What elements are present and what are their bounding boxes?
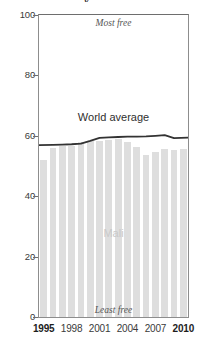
y-tick-label-80: 80 bbox=[7, 70, 35, 79]
x-tick-label-2010: 2010 bbox=[168, 323, 197, 334]
x-tick-label-2007: 2007 bbox=[140, 323, 170, 334]
economic-freedom-chart: y 020406080100 Most free World average M… bbox=[0, 0, 197, 348]
y-tick-label-100: 100 bbox=[7, 10, 35, 19]
x-tick-label-1998: 1998 bbox=[57, 323, 87, 334]
line-series-world-average bbox=[39, 15, 188, 317]
x-tick-label-2001: 2001 bbox=[85, 323, 115, 334]
annotation-least-free: Least free bbox=[39, 305, 188, 315]
y-tick-label-20: 20 bbox=[7, 252, 35, 261]
cropped-title-descender: y bbox=[83, 0, 95, 2]
y-tick-label-60: 60 bbox=[7, 131, 35, 140]
x-tick-label-1995: 1995 bbox=[29, 323, 59, 334]
x-tick-label-2004: 2004 bbox=[112, 323, 142, 334]
annotation-world-average-label: World average bbox=[39, 111, 188, 123]
annotation-mali-label: Mali bbox=[39, 227, 188, 239]
y-tick-label-40: 40 bbox=[7, 191, 35, 200]
y-tick-label-0: 0 bbox=[7, 312, 35, 321]
plot-area: Most free World average Mali Least free bbox=[38, 14, 189, 318]
